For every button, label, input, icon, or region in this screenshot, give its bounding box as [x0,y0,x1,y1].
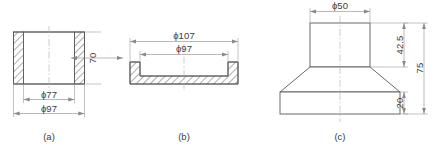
part-a-dim-od-label: ϕ97 [41,103,57,114]
part-b-group: ϕ97 ϕ107 (b) [130,30,238,142]
part-a-left-wall [14,32,24,84]
technical-drawing-figure: 70 ϕ77 ϕ97 (a) ϕ97 [0,0,438,154]
part-b-dim-id-label: ϕ97 [176,43,192,54]
part-c-dim-base-label: 20 [394,98,405,109]
part-c-dim-d-label: ϕ50 [332,0,348,11]
part-c-dim-upper-label: 42.5 [394,36,405,55]
part-a-caption: (a) [43,131,55,142]
part-c-caption: (c) [334,131,345,142]
drawing-canvas: 70 ϕ77 ϕ97 (a) ϕ97 [0,0,438,154]
part-c-group: ϕ50 42.5 20 75 (c) [280,0,428,142]
part-c-dim-overall-label: 75 [414,63,425,74]
part-a-dim-id-label: ϕ77 [41,89,57,100]
part-a-group: 70 ϕ77 ϕ97 (a) [14,26,124,142]
part-b-caption: (b) [178,131,190,142]
part-b-dim-od-label: ϕ107 [173,30,195,41]
part-a-dim-height-label: 70 [87,53,98,64]
